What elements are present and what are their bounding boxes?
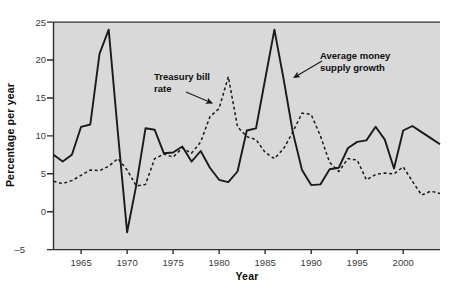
x-tick-label-1995: 1995 <box>347 257 368 268</box>
x-tick-label-2000: 2000 <box>393 257 414 268</box>
x-axis-title: Year <box>37 270 456 282</box>
y-tick-label-5: 5 <box>41 168 46 179</box>
y-tick-label-20: 20 <box>35 54 46 65</box>
y-tick-label-15: 15 <box>35 92 46 103</box>
chart-plot-area: 2520151050–51965197019751980198519901995… <box>0 0 456 299</box>
x-tick-label-1990: 1990 <box>301 257 322 268</box>
x-tick-label-1975: 1975 <box>163 257 184 268</box>
x-tick-label-1965: 1965 <box>71 257 92 268</box>
y-axis-title: Percentage per year <box>4 55 18 215</box>
x-tick-label-1985: 1985 <box>255 257 276 268</box>
x-tick-label-1980: 1980 <box>209 257 230 268</box>
treasury-bill-rate-label: Treasury bill rate <box>154 71 210 94</box>
y-tick-label-0: 0 <box>41 206 46 217</box>
y-tick-label-10: 10 <box>35 130 46 141</box>
money-supply-growth-label: Average money supply growth <box>320 50 390 73</box>
y-tick-label-25: 25 <box>35 17 46 28</box>
chart-figure: 2520151050–51965197019751980198519901995… <box>0 0 456 299</box>
x-tick-label-1970: 1970 <box>117 257 138 268</box>
y-tick-label--5: –5 <box>14 244 25 255</box>
